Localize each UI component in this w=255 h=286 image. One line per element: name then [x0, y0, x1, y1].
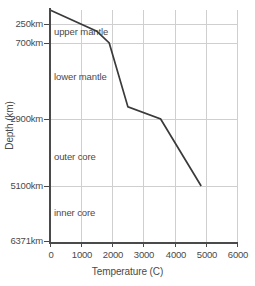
x-tick-label-2000: 2000 [103, 249, 123, 260]
x-tick-3000 [143, 242, 144, 247]
y-tick-label-250: 250km [0, 18, 43, 29]
x-tick-0 [50, 242, 51, 247]
x-tick-label-5000: 5000 [197, 249, 217, 260]
x-tick-6000 [237, 242, 238, 247]
x-tick-1000 [81, 242, 82, 247]
x-axis-title: Temperature (C) [0, 266, 255, 277]
geotherm-line [50, 10, 237, 242]
y-tick-label-700: 700km [0, 37, 43, 48]
y-tick-label-6371: 6371km [0, 235, 43, 246]
x-tick-label-6000: 6000 [228, 249, 248, 260]
plot-area: upper mantle lower mantle outer core inn… [50, 10, 237, 242]
x-tick-label-4000: 4000 [166, 249, 186, 260]
x-tick-5000 [206, 242, 207, 247]
x-tick-4000 [175, 242, 176, 247]
x-tick-2000 [112, 242, 113, 247]
y-tick-700 [44, 43, 50, 44]
x-tick-label-0: 0 [48, 249, 53, 260]
gridline-temp-6000 [237, 10, 238, 242]
depth-temperature-chart: upper mantle lower mantle outer core inn… [0, 0, 255, 286]
y-tick-5100 [44, 186, 50, 187]
y-tick-250 [44, 24, 50, 25]
y-tick-label-5100: 5100km [0, 180, 43, 191]
y-tick-2900 [44, 119, 50, 120]
x-tick-label-3000: 3000 [134, 249, 154, 260]
y-axis-title: Depth (km) [4, 71, 15, 181]
x-tick-label-1000: 1000 [72, 249, 92, 260]
